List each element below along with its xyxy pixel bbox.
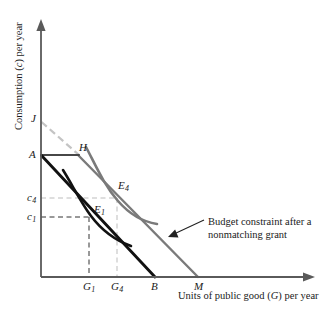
point-label-e4-base: E (118, 179, 125, 191)
y-axis-title-tail: ) per year (13, 22, 24, 62)
axis-label-c4: c4 (27, 192, 36, 205)
y-axis-title: Consumption (c) per year (14, 22, 25, 130)
point-label-e1-base: E (94, 203, 101, 215)
y-axis-title-plain: Consumption ( (13, 67, 24, 130)
x-axis-arrowhead (303, 272, 315, 281)
x-axis-title-tail: ) per year (278, 290, 318, 301)
annotation-line-2: nonmatching grant (208, 228, 312, 241)
annotation-line-1: Budget constraint after a (208, 215, 312, 228)
virtual-budget-extension-JH (42, 122, 80, 155)
chart-canvas (0, 0, 335, 319)
point-label-e1-sub: 1 (101, 208, 105, 217)
economics-diagram-figure: Consumption (c) per year Units of public… (0, 0, 335, 319)
axis-label-g1: G1 (83, 281, 95, 294)
axis-label-b: B (151, 281, 158, 292)
axis-label-g4: G4 (111, 281, 123, 294)
axis-label-m: M (194, 281, 203, 292)
annotation-arrowhead (168, 230, 179, 238)
y-axis-title-italic: c (13, 63, 24, 68)
axis-label-c1-sub: 1 (32, 215, 36, 224)
x-axis-title-plain: Units of public good ( (178, 290, 271, 301)
point-label-e4-sub: 4 (125, 184, 129, 193)
point-label-h: H (79, 142, 87, 153)
axis-label-g1-base: G (83, 280, 91, 292)
point-label-e1: E1 (94, 204, 105, 217)
axis-label-c1: c1 (27, 211, 36, 224)
axis-label-g4-sub: 4 (119, 285, 123, 294)
point-label-e4: E4 (118, 180, 129, 193)
point-label-a: A (29, 149, 36, 160)
point-label-j: J (31, 113, 36, 124)
x-axis-title: Units of public good (G) per year (178, 291, 319, 302)
budget-constraint-annotation: Budget constraint after a nonmatching gr… (208, 215, 312, 241)
axis-label-c4-sub: 4 (32, 196, 36, 205)
axis-label-g1-sub: 1 (91, 285, 95, 294)
y-axis-arrowhead (36, 19, 45, 31)
axis-label-g4-base: G (111, 280, 119, 292)
annotation-leader-line (174, 220, 204, 234)
